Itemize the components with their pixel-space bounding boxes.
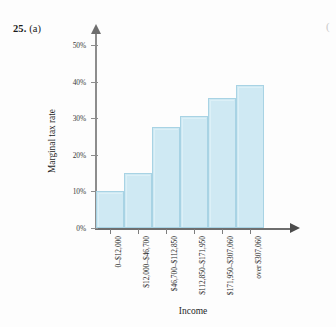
bar-chart: 0%10%20%30%40%50% 0–$12,000$12,000–$46,7… [0,0,336,327]
y-axis-tick-label: 40% [73,77,86,86]
x-axis-arrowhead [290,223,300,233]
y-axis-tick [91,118,98,119]
y-axis-title: Marginal tax rate [47,81,57,201]
bar [124,173,152,228]
y-axis-tick-label: 10% [73,187,86,196]
bar [236,85,264,228]
y-axis-arrowhead [91,24,101,34]
x-axis-tick [222,229,223,234]
x-axis-tick [138,229,139,234]
y-axis-tick-label: 20% [73,150,86,159]
y-axis-tick [91,45,98,46]
x-axis-tick [110,229,111,234]
bar [180,116,208,228]
bar [96,191,124,228]
x-axis-category-label: $171,950–$307,060 [226,236,235,295]
y-axis-tick-label: 0% [76,224,86,233]
x-axis-title: Income [0,306,336,316]
y-axis-tick [91,155,98,156]
bar [208,98,236,228]
x-axis-category-label: 0–$12,000 [114,236,123,267]
x-axis-title-text: Income [129,306,208,316]
x-axis-tick [250,229,251,234]
x-axis-tick [194,229,195,234]
x-axis-category-label: over $307,060 [254,236,263,279]
x-axis-category-label: $12,000–$46,700 [142,236,151,288]
y-axis-tick-label: 50% [73,41,86,50]
y-axis-tick [91,82,98,83]
figure-page: 25. (a) ( 0%10%20%30%40%50% 0–$12,000$12… [0,0,336,327]
y-axis-tick [91,228,98,229]
bar [152,127,180,228]
x-axis-tick [166,229,167,234]
x-axis-category-label: $46,700–$112,850 [170,236,179,291]
y-axis-tick-label: 30% [73,114,86,123]
x-axis-category-label: $112,850–$171,950 [198,236,207,295]
